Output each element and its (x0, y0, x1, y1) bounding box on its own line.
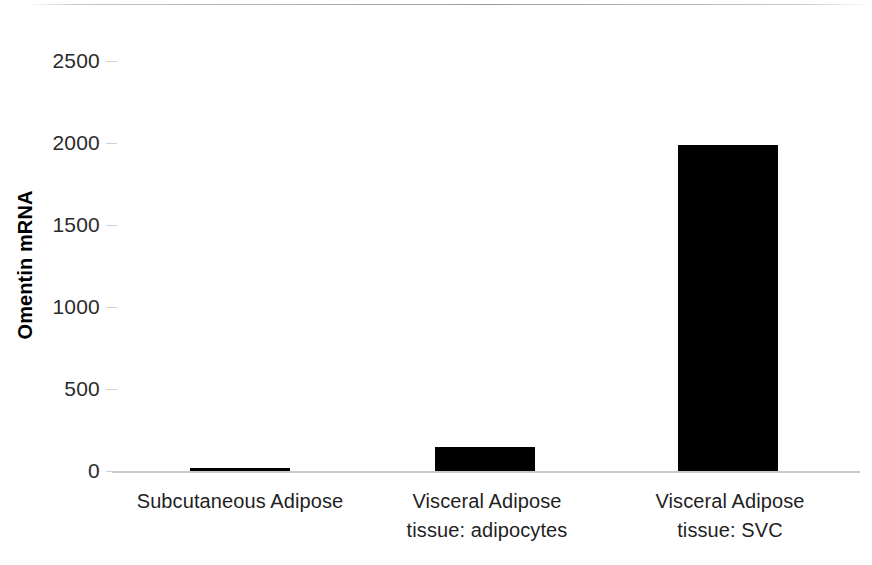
x-axis-baseline (112, 471, 860, 473)
bar (678, 145, 778, 471)
scan-artifact-line (28, 4, 872, 5)
y-axis-tick (106, 143, 117, 144)
bar-chart-figure: Omentin mRNA 05001000150020002500 Subcut… (0, 0, 872, 565)
bar (435, 447, 535, 471)
y-axis-tick-label: 1000 (52, 295, 100, 319)
y-axis-tick (106, 61, 117, 62)
y-axis-tick-label: 2500 (52, 49, 100, 73)
bar (190, 468, 290, 471)
y-axis-tick-labels: 05001000150020002500 (0, 0, 100, 565)
y-axis-tick-label: 0 (88, 459, 100, 483)
x-axis-category-label: Visceral Adipose tissue: adipocytes (382, 487, 592, 545)
y-axis-tick-label: 500 (64, 377, 100, 401)
x-axis-category-label: Visceral Adipose tissue: SVC (625, 487, 835, 545)
y-axis-tick (106, 307, 117, 308)
y-axis-tick (106, 389, 117, 390)
y-axis-tick (106, 225, 117, 226)
y-axis-tick-label: 2000 (52, 131, 100, 155)
y-axis-tick-label: 1500 (52, 213, 100, 237)
x-axis-category-label: Subcutaneous Adipose (120, 487, 360, 516)
